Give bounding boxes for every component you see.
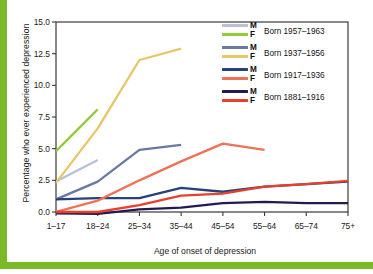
- plot-area: Percentage who ever experienced depressi…: [0, 0, 373, 274]
- legend-group: MFBorn 1917–1936: [222, 66, 352, 88]
- series-line: [56, 49, 181, 183]
- legend-label-female: F: [250, 97, 255, 105]
- series-line: [56, 160, 98, 182]
- legend-swatch-female: [222, 77, 248, 80]
- series-line: [56, 181, 348, 212]
- legend-label-male: M: [250, 88, 257, 96]
- legend-label-male: M: [250, 66, 257, 74]
- legend-cohort-label: Born 1957–1963: [264, 27, 325, 36]
- legend-cohort-label: Born 1917–1936: [264, 71, 325, 80]
- legend-label-female: F: [250, 75, 255, 83]
- legend-cohort-label: Born 1937–1956: [264, 49, 325, 58]
- legend-label-male: M: [250, 22, 257, 30]
- legend-label-male: M: [250, 44, 257, 52]
- legend-swatch-female: [222, 99, 248, 102]
- figure-container: Percentage who ever experienced depressi…: [0, 0, 373, 274]
- legend-group: MFBorn 1957–1963: [222, 22, 352, 44]
- legend-swatch-male: [222, 46, 248, 49]
- legend-cohort-label: Born 1881–1916: [264, 93, 325, 102]
- legend-swatch-female: [222, 55, 248, 58]
- legend-swatch-male: [222, 90, 248, 93]
- legend-swatch-male: [222, 68, 248, 71]
- legend-swatch-male: [222, 24, 248, 27]
- series-line: [56, 109, 98, 151]
- chart-legend: MFBorn 1957–1963MFBorn 1937–1956MFBorn 1…: [222, 22, 352, 110]
- legend-group: MFBorn 1937–1956: [222, 44, 352, 66]
- legend-label-female: F: [250, 31, 255, 39]
- legend-swatch-female: [222, 33, 248, 36]
- legend-label-female: F: [250, 53, 255, 61]
- legend-group: MFBorn 1881–1916: [222, 88, 352, 110]
